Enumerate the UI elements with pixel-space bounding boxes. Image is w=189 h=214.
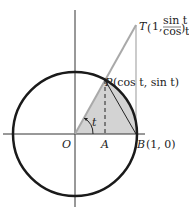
label-O: O — [62, 138, 71, 151]
angle-label: t — [92, 116, 97, 129]
paren-open: ( — [147, 22, 151, 35]
label-P: P — [104, 76, 113, 89]
unit-circle-diagram: t O A B (1, 0) P (cos t, sin t) T ( 1, s… — [0, 0, 189, 214]
label-T-x: 1, — [152, 20, 163, 33]
label-A: A — [100, 138, 109, 151]
label-B-coords: (1, 0) — [146, 138, 176, 151]
label-B: B — [136, 138, 145, 151]
paren-close: ) — [181, 22, 185, 35]
label-P-coords: (cos t, sin t) — [113, 76, 179, 89]
